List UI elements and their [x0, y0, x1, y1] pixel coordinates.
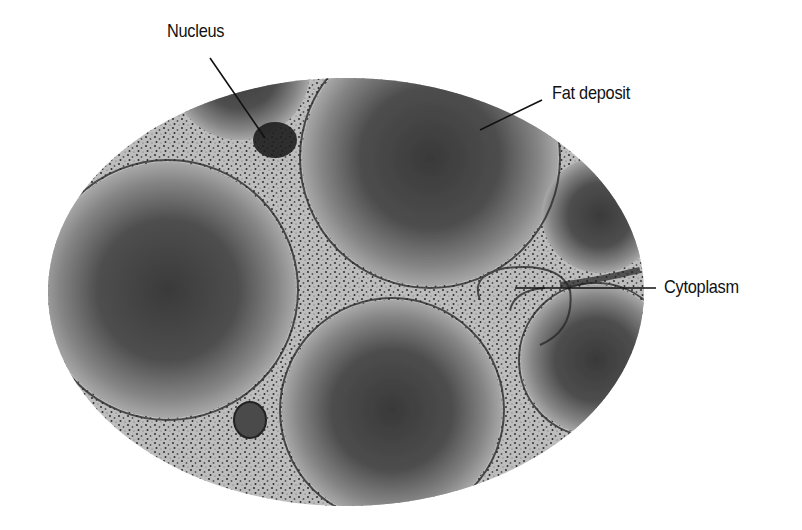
label-cytoplasm: Cytoplasm	[664, 276, 739, 298]
label-fat-deposit: Fat deposit	[552, 82, 630, 104]
figure: Nucleus Fat deposit Cytoplasm	[0, 0, 802, 530]
fat-deposit-right-bottom	[521, 285, 671, 435]
fat-deposit-top	[302, 30, 558, 286]
fat-deposit-bottom	[282, 300, 502, 520]
label-nucleus: Nucleus	[167, 20, 224, 42]
micrograph-image	[0, 0, 802, 530]
fat-deposit-large-left	[40, 162, 296, 418]
organelle	[234, 402, 266, 438]
nucleus	[253, 122, 297, 158]
